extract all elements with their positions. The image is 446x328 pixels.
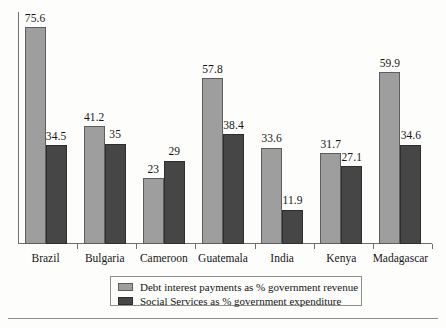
legend-label-social-services: Social Services as % government expendit… bbox=[140, 295, 341, 307]
bar-bulgaria-series-2 bbox=[105, 144, 126, 244]
value-label-kenya-series-1: 31.7 bbox=[320, 139, 341, 151]
plot-area: 75.634.541.235232957.838.433.611.931.727… bbox=[18, 12, 432, 244]
page-divider-rule bbox=[8, 318, 438, 319]
value-label-guatemala-series-2: 38.4 bbox=[223, 120, 244, 132]
value-label-india-series-2: 11.9 bbox=[282, 195, 303, 207]
bar-cameroon-series-1 bbox=[143, 178, 164, 244]
bar-group: 31.727.1 bbox=[320, 12, 362, 244]
legend-swatch-light-icon bbox=[118, 283, 133, 291]
bar-guatemala-series-1 bbox=[202, 78, 223, 244]
category-label-madagascar: Madagascar bbox=[360, 252, 440, 265]
value-label-madagascar-series-1: 59.9 bbox=[379, 58, 400, 70]
bar-group: 57.838.4 bbox=[202, 12, 244, 244]
bar-india-series-2 bbox=[282, 210, 303, 244]
x-axis-tick bbox=[195, 244, 196, 249]
value-label-bulgaria-series-2: 35 bbox=[105, 129, 126, 141]
value-label-cameroon-series-1: 23 bbox=[143, 164, 164, 176]
bar-brazil-series-2 bbox=[46, 145, 67, 244]
legend-swatch-dark-icon bbox=[118, 297, 133, 305]
bar-madagascar-series-1 bbox=[379, 72, 400, 244]
bar-group: 59.934.6 bbox=[379, 12, 421, 244]
bar-bulgaria-series-1 bbox=[84, 126, 105, 244]
legend-item-social-services: Social Services as % government expendit… bbox=[118, 294, 361, 307]
value-label-bulgaria-series-1: 41.2 bbox=[84, 112, 105, 124]
value-label-madagascar-series-2: 34.6 bbox=[400, 130, 421, 142]
bar-kenya-series-1 bbox=[320, 153, 341, 244]
x-axis-tick bbox=[77, 244, 78, 249]
bar-kenya-series-2 bbox=[341, 166, 362, 244]
bar-group: 41.235 bbox=[84, 12, 126, 244]
value-label-brazil-series-2: 34.5 bbox=[46, 131, 67, 143]
chart-legend: Debt interest payments as % government r… bbox=[110, 276, 362, 306]
bar-group: 75.634.5 bbox=[25, 12, 67, 244]
x-axis-tick bbox=[255, 244, 256, 249]
bar-chart: 75.634.541.235232957.838.433.611.931.727… bbox=[0, 0, 446, 328]
x-axis-tick bbox=[314, 244, 315, 249]
value-label-guatemala-series-1: 57.8 bbox=[202, 64, 223, 76]
legend-label-debt-interest: Debt interest payments as % government r… bbox=[140, 281, 358, 293]
x-axis-tick bbox=[136, 244, 137, 249]
bar-cameroon-series-2 bbox=[164, 161, 185, 244]
bar-group: 33.611.9 bbox=[261, 12, 303, 244]
x-axis-end-tick bbox=[432, 244, 433, 249]
bar-madagascar-series-2 bbox=[400, 145, 421, 244]
bar-group: 2329 bbox=[143, 12, 185, 244]
bar-india-series-1 bbox=[261, 148, 282, 244]
bar-brazil-series-1 bbox=[25, 27, 46, 244]
value-label-cameroon-series-2: 29 bbox=[164, 146, 185, 158]
value-label-kenya-series-2: 27.1 bbox=[341, 152, 362, 164]
value-label-brazil-series-1: 75.6 bbox=[25, 13, 46, 25]
x-axis-tick bbox=[373, 244, 374, 249]
value-label-india-series-1: 33.6 bbox=[261, 133, 282, 145]
bar-guatemala-series-2 bbox=[223, 134, 244, 244]
legend-item-debt-interest: Debt interest payments as % government r… bbox=[118, 280, 361, 293]
